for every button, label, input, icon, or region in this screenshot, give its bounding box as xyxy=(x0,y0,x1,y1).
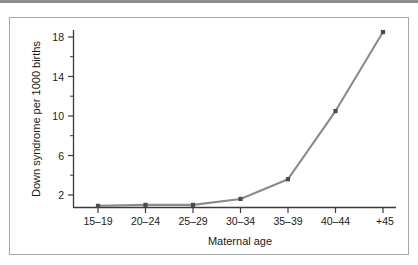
x-axis-ticks xyxy=(98,208,383,214)
x-tick-label-20-24: 20–24 xyxy=(131,215,160,227)
data-point-20–24 xyxy=(143,203,147,207)
y-tick-label-2: 2 xyxy=(58,189,64,201)
y-axis-title: Down syndrome per 1000 births xyxy=(30,41,42,197)
y-tick-label-18: 18 xyxy=(52,31,64,43)
data-point-25–29 xyxy=(191,203,195,207)
x-tick-label-30-34: 30–34 xyxy=(226,215,255,227)
x-tick-label-plus45: +45 xyxy=(376,215,394,227)
x-axis-title: Maternal age xyxy=(208,235,272,247)
data-point-markers xyxy=(96,30,385,208)
y-tick-label-6: 6 xyxy=(58,150,64,162)
x-tick-label-15-19: 15–19 xyxy=(83,215,112,227)
figure-container: 18 14 10 6 2 Down syndrome per 1000 birt… xyxy=(0,0,418,265)
y-tick-label-14: 14 xyxy=(52,71,64,83)
data-point-15–19 xyxy=(96,204,100,208)
data-line-series xyxy=(98,32,383,206)
data-point-35–39 xyxy=(286,177,290,181)
y-axis-major-ticks xyxy=(68,37,74,195)
x-tick-label-35-39: 35–39 xyxy=(273,215,302,227)
y-tick-label-10: 10 xyxy=(52,110,64,122)
data-point-40–44 xyxy=(333,109,337,113)
x-tick-label-40-44: 40–44 xyxy=(321,215,350,227)
data-point-+45 xyxy=(381,30,385,34)
x-tick-label-25-29: 25–29 xyxy=(178,215,207,227)
data-point-30–34 xyxy=(238,197,242,201)
line-chart: 18 14 10 6 2 Down syndrome per 1000 birt… xyxy=(0,0,418,265)
